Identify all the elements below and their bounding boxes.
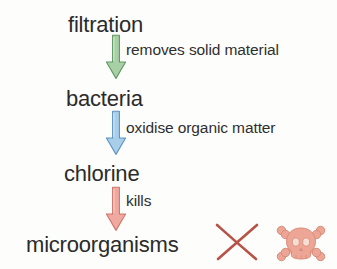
node-label-bacteria: bacteria <box>66 88 143 110</box>
node-label-microorganisms: microorganisms <box>26 234 178 256</box>
arrow-caption-kills: kills <box>126 193 151 209</box>
arrow-caption-oxidise-organic-matter: oxidise organic matter <box>126 120 275 136</box>
skull-and-crossbones-icon <box>275 222 327 264</box>
node-label-chlorine: chlorine <box>64 163 139 185</box>
diagram-canvas: filtration removes solid material bacter… <box>0 0 337 269</box>
arrow-caption-removes-solid-material: removes solid material <box>126 42 279 58</box>
node-label-filtration: filtration <box>68 14 143 36</box>
cross-mark-icon <box>212 220 262 264</box>
